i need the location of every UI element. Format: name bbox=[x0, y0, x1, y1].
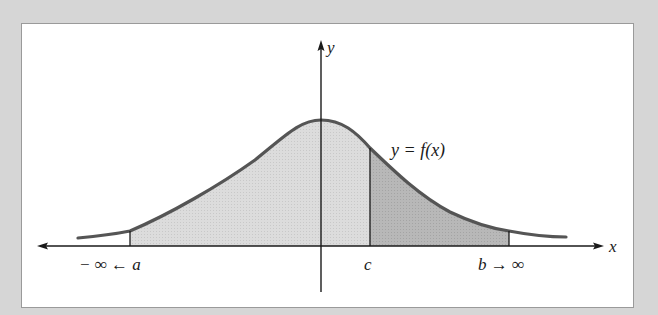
y-axis-label: y bbox=[327, 39, 335, 56]
a-label: − ∞ ← a bbox=[79, 256, 141, 273]
c-label: c bbox=[364, 256, 372, 273]
curve-label: y = f(x) bbox=[391, 141, 445, 159]
right-region bbox=[370, 148, 509, 246]
x-axis-label: x bbox=[609, 238, 617, 255]
b-label: b → ∞ bbox=[478, 256, 524, 273]
left-region bbox=[130, 120, 370, 246]
